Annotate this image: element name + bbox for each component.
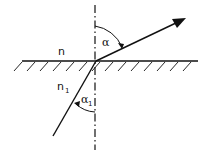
label-n: n	[58, 45, 65, 58]
label-alpha: α	[102, 36, 110, 49]
refraction-diagram: n α n 1 α 1	[0, 0, 210, 162]
arc-arrow-icon-lower	[74, 101, 80, 107]
label-n1: n	[57, 80, 64, 93]
interface-hatching	[14, 62, 191, 71]
incident-ray	[53, 61, 96, 136]
arrowhead-icon	[172, 18, 186, 28]
label-alpha1-sub: 1	[88, 100, 92, 108]
label-n1-sub: 1	[65, 87, 69, 95]
